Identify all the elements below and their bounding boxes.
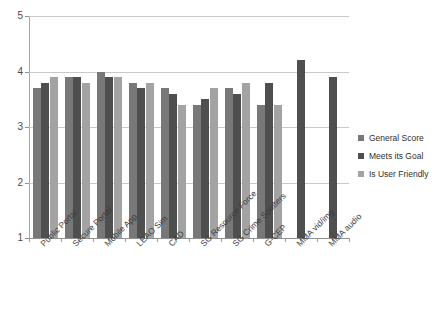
bars-layer xyxy=(29,16,349,238)
bar xyxy=(201,99,209,238)
x-axis-labels: Public PortalSecure PortalMobile AppLEAO… xyxy=(29,242,359,313)
legend-swatch-icon xyxy=(358,171,364,177)
bar xyxy=(274,105,282,238)
legend-swatch-icon xyxy=(358,135,364,141)
bar-group xyxy=(285,16,317,238)
bar-group xyxy=(317,16,349,238)
legend-item[interactable]: Is User Friendly xyxy=(358,165,444,183)
bar xyxy=(193,105,201,238)
bar xyxy=(137,88,145,238)
y-tick-label: 2 xyxy=(17,178,23,188)
y-tick-label: 5 xyxy=(17,11,23,21)
legend-label: Is User Friendly xyxy=(369,170,429,179)
legend-item[interactable]: General Score xyxy=(358,129,444,147)
bar xyxy=(169,94,177,238)
bar-group xyxy=(29,16,61,238)
bar xyxy=(297,60,305,238)
bar-group xyxy=(93,16,125,238)
bar-group xyxy=(125,16,157,238)
bar xyxy=(33,88,41,238)
y-tick-label: 4 xyxy=(17,67,23,77)
bar xyxy=(146,83,154,238)
bar-group xyxy=(157,16,189,238)
bar xyxy=(41,83,49,238)
chart-legend: General ScoreMeets its GoalIs User Frien… xyxy=(358,129,444,183)
bar xyxy=(50,77,58,238)
legend-label: Meets its Goal xyxy=(369,152,423,161)
bar-group xyxy=(189,16,221,238)
y-tick-label: 3 xyxy=(17,122,23,132)
bar xyxy=(242,83,250,238)
bar xyxy=(114,77,122,238)
legend-label: General Score xyxy=(369,134,424,143)
legend-item[interactable]: Meets its Goal xyxy=(358,147,444,165)
bar-chart: Scores Across the IT Portfolio 12345 Pub… xyxy=(0,0,444,313)
bar xyxy=(178,105,186,238)
y-tick-label: 1 xyxy=(17,233,23,243)
chart-title: Scores Across the IT Portfolio xyxy=(0,0,340,2)
legend-swatch-icon xyxy=(358,153,364,159)
bar xyxy=(82,83,90,238)
bar-group xyxy=(61,16,93,238)
plot-area: 12345 xyxy=(29,16,349,238)
bar xyxy=(210,88,218,238)
